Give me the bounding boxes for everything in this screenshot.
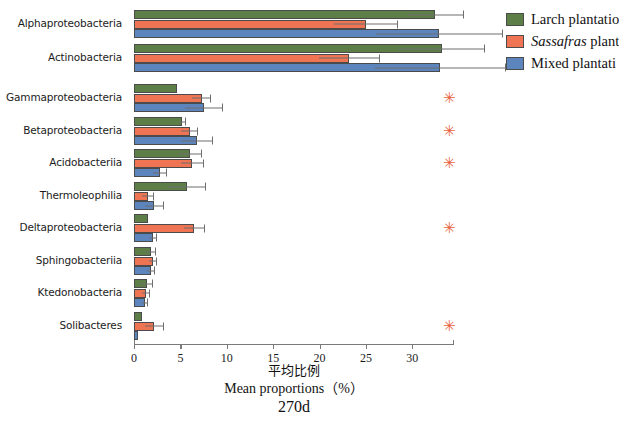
x-axis-line xyxy=(134,344,454,345)
bar-row xyxy=(134,84,454,93)
error-bar xyxy=(147,270,154,271)
error-bar xyxy=(375,67,505,68)
error-bar-cap xyxy=(147,299,148,307)
bar-row xyxy=(134,312,454,321)
x-axis-tick xyxy=(320,344,321,349)
category-label: Ktedonobacteria xyxy=(38,287,129,298)
error-bar-cap xyxy=(205,183,206,191)
category-label: Alphaproteobacteria xyxy=(18,18,128,29)
x-axis-tick xyxy=(273,344,274,349)
legend-swatch-orange xyxy=(506,35,524,48)
category-label: Solibacteres xyxy=(59,320,128,331)
error-bar-cap xyxy=(379,54,380,62)
bar-group xyxy=(134,312,454,340)
bar xyxy=(134,331,138,340)
error-bar xyxy=(399,48,484,49)
error-bar xyxy=(142,302,148,303)
bar-row xyxy=(134,322,454,331)
error-bar-cap xyxy=(463,11,464,19)
panel-label: 270d xyxy=(134,398,454,416)
error-bar-cap xyxy=(156,234,157,242)
bar-row xyxy=(134,257,454,266)
legend-item[interactable]: Mixed plantati xyxy=(506,52,628,74)
bar-row xyxy=(134,136,454,145)
error-bar-cap xyxy=(153,192,154,200)
category-label-column: AlphaproteobacteriaActinobacteriaGammapr… xyxy=(0,0,128,345)
x-axis: 051015202530 xyxy=(134,344,454,346)
bar-row xyxy=(134,168,454,177)
significance-marker: ✳ xyxy=(443,91,456,106)
category-label: Thermoleophilia xyxy=(40,190,128,201)
legend-label: Larch plantatio xyxy=(531,11,619,28)
error-bar-cap xyxy=(484,45,485,53)
bar xyxy=(134,84,177,93)
error-bar-cap xyxy=(197,127,198,135)
bar-row xyxy=(134,63,454,72)
bar-row xyxy=(134,298,454,307)
legend-item[interactable]: Sassafras plant xyxy=(506,30,628,52)
error-bar-cap xyxy=(156,257,157,265)
error-bar xyxy=(181,163,203,164)
bar-row xyxy=(134,159,454,168)
error-bar xyxy=(146,251,155,252)
error-bar-cap xyxy=(149,289,150,297)
legend: Larch plantatioSassafras plantMixed plan… xyxy=(506,8,628,74)
bar-row xyxy=(134,182,454,191)
error-bar-cap xyxy=(163,322,164,330)
error-bar-cap xyxy=(212,137,213,145)
error-bar-cap xyxy=(152,280,153,288)
error-bar-cap xyxy=(502,30,503,38)
error-bar xyxy=(185,107,222,108)
bar-row xyxy=(134,44,454,53)
bar-row xyxy=(134,54,454,63)
error-bar-cap xyxy=(397,20,398,28)
legend-label: Sassafras plant xyxy=(531,33,619,50)
bar xyxy=(134,44,442,53)
bar-group xyxy=(134,182,454,210)
significance-marker: ✳ xyxy=(443,156,456,171)
error-bar-cap xyxy=(155,248,156,256)
bar-row xyxy=(134,20,454,29)
error-bar xyxy=(145,205,164,206)
plot-area xyxy=(134,8,454,344)
bar xyxy=(134,20,366,29)
bar-group xyxy=(134,84,454,112)
error-bar-cap xyxy=(154,267,155,275)
bar-row xyxy=(134,117,454,126)
error-bar-cap xyxy=(185,118,186,126)
bar-row xyxy=(134,94,454,103)
legend-item[interactable]: Larch plantatio xyxy=(506,8,628,30)
error-bar xyxy=(178,153,202,154)
bar-row xyxy=(134,103,454,112)
category-label: Gammaproteobacteria xyxy=(6,92,128,103)
bar-group xyxy=(134,10,454,38)
bar-group xyxy=(134,247,454,275)
significance-marker: ✳ xyxy=(443,319,456,334)
legend-swatch-green xyxy=(506,13,524,26)
bar-row xyxy=(134,149,454,158)
bar xyxy=(134,54,349,63)
category-label: Deltaproteobacteria xyxy=(20,222,128,233)
legend-label-rest: plant xyxy=(587,33,620,49)
bar-row xyxy=(134,127,454,136)
x-axis-endcap xyxy=(134,340,135,345)
bar-group xyxy=(134,279,454,307)
error-bar-cap xyxy=(166,169,167,177)
error-bar xyxy=(376,33,502,34)
x-axis-tick xyxy=(412,344,413,349)
bar-row xyxy=(134,201,454,210)
bar-row xyxy=(134,266,454,275)
bar-group xyxy=(134,44,454,72)
bar-row xyxy=(134,233,454,242)
x-axis-tick xyxy=(227,344,228,349)
error-bar xyxy=(168,186,205,187)
bar-group xyxy=(134,214,454,242)
bar xyxy=(134,117,182,126)
bar-group xyxy=(134,117,454,145)
error-bar-cap xyxy=(163,202,164,210)
bar-row xyxy=(134,29,454,38)
bar-row xyxy=(134,331,454,340)
bar-row xyxy=(134,247,454,256)
x-axis-tick xyxy=(366,344,367,349)
significance-marker: ✳ xyxy=(443,221,456,236)
